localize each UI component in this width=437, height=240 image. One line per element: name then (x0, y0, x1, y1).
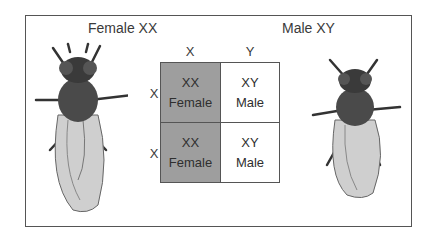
female-fly-icon (28, 40, 128, 220)
punnett-cell: XY Male (221, 123, 279, 182)
genotype-label: XY (241, 133, 258, 153)
genotype-label: XY (241, 73, 258, 93)
genotype-label: XX (182, 73, 199, 93)
sex-label: Male (236, 153, 264, 173)
female-title: Female XX (88, 20, 157, 36)
male-title: Male XY (282, 20, 335, 36)
punnett-square: XX Female XY Male XX Female XY Male (160, 62, 280, 183)
punnett-cell: XX Female (161, 123, 221, 182)
male-fly-icon (305, 55, 405, 205)
genotype-label: XX (182, 133, 199, 153)
sex-label: Female (169, 153, 212, 173)
punnett-cell: XX Female (161, 63, 221, 123)
col-header-1: Y (240, 44, 260, 59)
col-header-0: X (180, 44, 200, 59)
punnett-cell: XY Male (221, 63, 279, 123)
sex-label: Female (169, 93, 212, 113)
sex-label: Male (236, 93, 264, 113)
